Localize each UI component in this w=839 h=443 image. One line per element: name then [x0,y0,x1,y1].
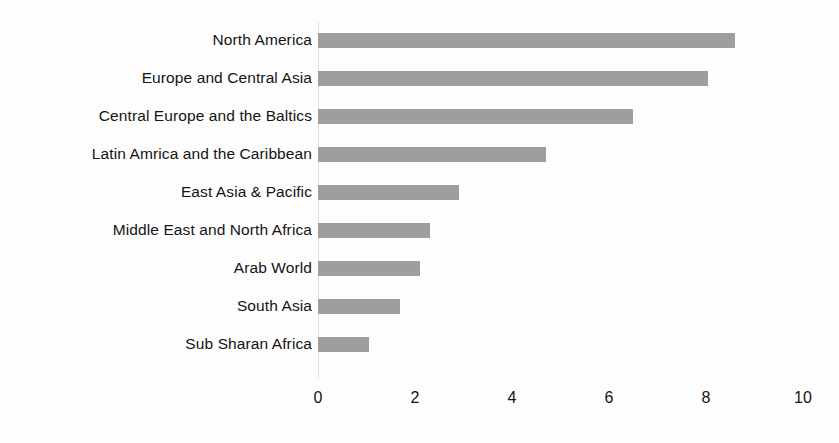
bar-row: Central Europe and the Baltics [0,97,839,135]
bar-value [318,109,633,124]
x-tick-label: 0 [314,390,323,406]
category-label: North America [213,32,313,48]
bar-row: South Asia [0,287,839,325]
bar-value [318,185,459,200]
bar-row: Arab World [0,249,839,287]
category-label: Arab World [234,260,312,276]
bar-row: Middle East and North Africa [0,211,839,249]
bar-value [318,337,369,352]
bar-value [318,299,400,314]
bar-chart: North America Europe and Central Asia Ce… [0,0,839,443]
bar-row: East Asia & Pacific [0,173,839,211]
category-label: Middle East and North Africa [113,222,312,238]
bar-value [318,261,420,276]
bar-value [318,147,546,162]
x-tick-label: 10 [794,390,812,406]
category-label: Latin Amrica and the Caribbean [92,146,312,162]
category-label: South Asia [237,298,312,314]
category-label: East Asia & Pacific [181,184,312,200]
bar-row: Latin Amrica and the Caribbean [0,135,839,173]
category-label: Central Europe and the Baltics [99,108,312,124]
bar-row: Sub Sharan Africa [0,325,839,363]
x-tick-label: 8 [702,390,711,406]
bar-row: Europe and Central Asia [0,59,839,97]
bar-value [318,223,430,238]
category-label: Europe and Central Asia [142,70,312,86]
x-tick-label: 2 [411,390,420,406]
category-label: Sub Sharan Africa [185,336,312,352]
x-tick-label: 6 [605,390,614,406]
bar-value [318,33,735,48]
plot-area: North America Europe and Central Asia Ce… [0,0,839,443]
bar-row: North America [0,21,839,59]
x-tick-label: 4 [508,390,517,406]
bar-value [318,71,708,86]
